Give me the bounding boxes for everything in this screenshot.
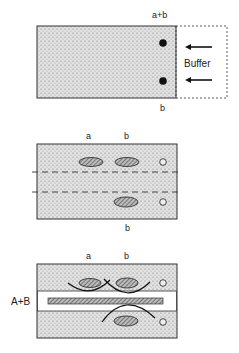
- empty-well-top: [160, 159, 167, 166]
- panel-1: a+b Buffer b: [37, 10, 227, 113]
- arrow-left-icon: [185, 44, 212, 50]
- sample-well-bottom: [159, 77, 167, 85]
- antiserum-bar: [48, 298, 163, 304]
- panel-3: a b A+B: [11, 251, 177, 338]
- gel-strip: [37, 26, 176, 98]
- sample-well-top: [159, 39, 167, 47]
- arrow-left-icon: [185, 77, 212, 83]
- label-antiserum: A+B: [11, 296, 31, 307]
- label-buffer: Buffer: [184, 58, 211, 69]
- label-b: b: [124, 251, 129, 261]
- spot-b-lower: [114, 316, 138, 326]
- gel-strip: [37, 144, 177, 219]
- spot-a: [79, 158, 103, 167]
- label-b-bottom: b: [125, 223, 130, 233]
- spot-b: [115, 158, 139, 167]
- label-a: a: [86, 131, 91, 141]
- empty-well-bottom: [160, 199, 167, 206]
- panel-2: a b b: [32, 131, 180, 233]
- spot-b-lower: [114, 197, 138, 207]
- label-a: a: [86, 251, 91, 261]
- label-a-plus-b: a+b: [152, 10, 167, 20]
- spot-a: [79, 279, 101, 288]
- label-b: b: [160, 103, 165, 113]
- spot-b: [116, 278, 138, 288]
- immunoelectrophoresis-diagram: a+b Buffer b a b b a b A+: [0, 0, 239, 353]
- empty-well-bottom: [160, 319, 167, 326]
- label-b: b: [124, 131, 129, 141]
- empty-well-top: [160, 280, 167, 287]
